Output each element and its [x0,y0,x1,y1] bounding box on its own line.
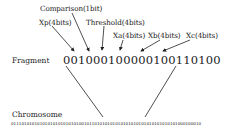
xc-label: Xc(4bits) [186,31,218,40]
xa-label: Xa(4bits) [113,31,145,40]
threshold-arrow [102,26,104,50]
xp-label: Xp(4bits) [39,18,71,27]
threshold-label: Threshold(4bits) [86,18,145,27]
fragment-bits: 001000100000100110100 [63,53,221,67]
xc-arrow [163,40,190,51]
fragment-right-connector [145,66,176,117]
xp-arrow [52,26,74,51]
xa-arrow [120,40,123,50]
fragment-label: Fragment [12,56,49,65]
xb-arrow [141,40,160,51]
xb-label: Xb(4bits) [148,31,180,40]
fragment-left-connector [66,66,103,117]
chromosome-bits: 0111010101010101010101010100101101010101… [11,121,201,126]
chromosome-label: Chromosome [12,110,62,119]
comparison-label: Comparison(1bit) [40,4,102,13]
